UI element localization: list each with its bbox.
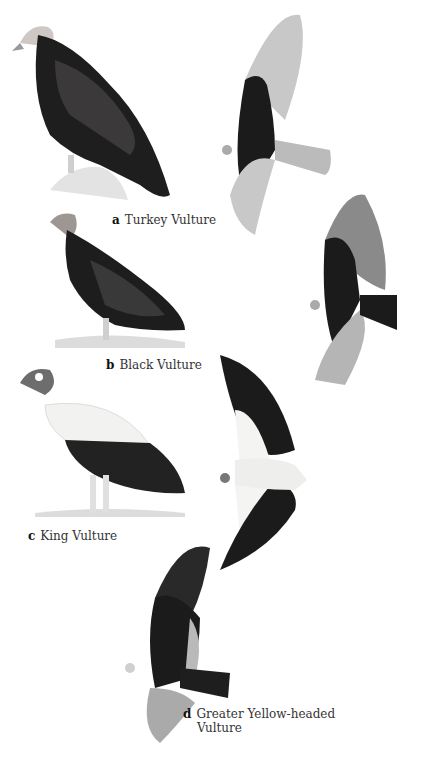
black-vulture-flight-illustration: [305, 190, 405, 390]
caption-d: dGreater Yellow-headed Vulture: [183, 707, 335, 735]
caption-c: cKing Vulture: [28, 529, 117, 543]
caption-letter: d: [183, 707, 191, 721]
vulture-plate: aTurkey Vulture bBlack Vulture: [0, 0, 444, 769]
caption-letter: c: [28, 529, 35, 543]
king-vulture-perched-illustration: [15, 365, 190, 520]
species-name: King Vulture: [40, 529, 117, 543]
species-name-line2: Vulture: [197, 721, 242, 735]
black-vulture-perched-illustration: [45, 210, 195, 350]
species-name: Greater Yellow-headed: [196, 707, 335, 721]
turkey-vulture-perched-illustration: [10, 15, 180, 205]
